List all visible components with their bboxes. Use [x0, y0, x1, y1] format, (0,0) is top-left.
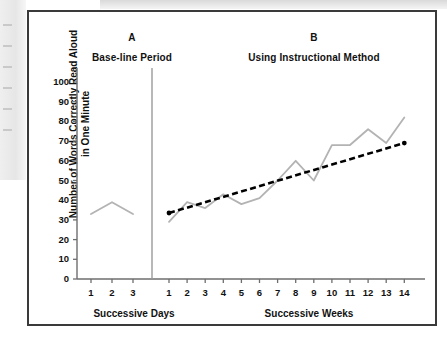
- y-tick-label: 90: [43, 96, 69, 107]
- x-axis-title-b: Successive Weeks: [229, 308, 389, 319]
- x-tick-label-day-2: 2: [104, 287, 120, 298]
- margin-mark: [3, 87, 12, 89]
- page-left-margin: [0, 0, 26, 180]
- x-tick-label-day-1: 1: [83, 287, 99, 298]
- y-tick-label: 40: [43, 194, 69, 205]
- y-tick-label: 80: [43, 115, 69, 126]
- y-tick-label: 20: [43, 234, 69, 245]
- x-tick-label-week-12: 12: [360, 287, 376, 298]
- x-axis-title-a: Successive Days: [79, 308, 189, 319]
- y-tick-label: 50: [43, 175, 69, 186]
- x-tick-label-week-7: 7: [270, 287, 286, 298]
- figure-frame: A B Base-line Period Using Instructional…: [27, 10, 437, 326]
- x-tick-label-week-11: 11: [342, 287, 358, 298]
- y-tick-label: 30: [43, 214, 69, 225]
- y-tick-label: 100: [43, 76, 69, 87]
- x-tick-label-week-10: 10: [324, 287, 340, 298]
- page-top-band: [100, 0, 447, 9]
- y-tick-label: 10: [43, 253, 69, 264]
- y-tick-label: 0: [43, 273, 69, 284]
- x-tick-label-week-3: 3: [197, 287, 213, 298]
- y-tick-label: 60: [43, 155, 69, 166]
- margin-mark: [3, 66, 12, 68]
- x-tick-label-week-8: 8: [288, 287, 304, 298]
- x-tick-label-day-3: 3: [125, 287, 141, 298]
- x-tick-label-week-14: 14: [396, 287, 412, 298]
- x-tick-label-week-4: 4: [215, 287, 231, 298]
- chart-plot-area: [29, 12, 439, 328]
- margin-mark: [3, 108, 12, 110]
- x-tick-label-week-2: 2: [179, 287, 195, 298]
- margin-mark: [3, 24, 12, 26]
- y-tick-label: 70: [43, 135, 69, 146]
- x-tick-label-week-1: 1: [161, 287, 177, 298]
- x-tick-label-week-6: 6: [252, 287, 268, 298]
- margin-mark: [3, 45, 12, 47]
- x-tick-label-week-5: 5: [233, 287, 249, 298]
- x-tick-label-week-13: 13: [378, 287, 394, 298]
- x-tick-label-week-9: 9: [306, 287, 322, 298]
- margin-mark: [3, 129, 12, 131]
